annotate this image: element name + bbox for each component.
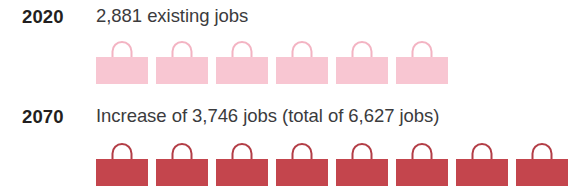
chart-row-2070: 2070 Increase of 3,746 jobs (total of 6,… bbox=[0, 100, 588, 136]
bag-handle bbox=[413, 144, 432, 161]
shopping-bag-icon-dark bbox=[456, 140, 508, 187]
shopping-bag-icon-light bbox=[276, 38, 328, 85]
shopping-bag-icon-dark bbox=[156, 140, 208, 187]
bag-body bbox=[216, 159, 268, 186]
year-label-2020: 2020 bbox=[22, 6, 64, 28]
year-label-2070: 2070 bbox=[22, 106, 64, 128]
shopping-bag-icon-light bbox=[216, 38, 268, 85]
bag-handle bbox=[293, 42, 312, 59]
bag-handle bbox=[113, 144, 132, 161]
bag-handle bbox=[293, 144, 312, 161]
shopping-bag-icon-dark bbox=[96, 140, 148, 187]
bag-body bbox=[96, 57, 148, 84]
bag-body bbox=[156, 159, 208, 186]
bag-body bbox=[156, 57, 208, 84]
row-description-2070: Increase of 3,746 jobs (total of 6,627 j… bbox=[96, 105, 439, 127]
bag-handle bbox=[173, 42, 192, 59]
shopping-bag-icon-dark bbox=[276, 140, 328, 187]
shopping-bag-icon-light bbox=[336, 38, 388, 85]
icon-strip-2020 bbox=[96, 38, 448, 85]
bag-handle bbox=[533, 144, 552, 161]
bag-handle bbox=[233, 144, 252, 161]
bag-handle bbox=[113, 42, 132, 59]
shopping-bag-icon-dark bbox=[516, 140, 568, 187]
shopping-bag-icon-light bbox=[156, 38, 208, 85]
bag-handle bbox=[353, 42, 372, 59]
bag-body bbox=[276, 57, 328, 84]
bag-body bbox=[216, 57, 268, 84]
shopping-bag-icon-light bbox=[96, 38, 148, 85]
icon-strip-2070 bbox=[96, 140, 568, 187]
row-description-2020: 2,881 existing jobs bbox=[96, 5, 248, 27]
bag-body bbox=[456, 159, 508, 186]
bag-body bbox=[276, 159, 328, 186]
bag-handle bbox=[413, 42, 432, 59]
bag-body bbox=[336, 159, 388, 186]
bag-handle bbox=[473, 144, 492, 161]
bag-body bbox=[396, 159, 448, 186]
shopping-bag-icon-dark bbox=[336, 140, 388, 187]
shopping-bag-icon-dark bbox=[216, 140, 268, 187]
shopping-bag-icon-light bbox=[396, 38, 448, 85]
shopping-bag-icon-dark bbox=[396, 140, 448, 187]
bag-handle bbox=[173, 144, 192, 161]
bag-body bbox=[96, 159, 148, 186]
chart-row-2020: 2020 2,881 existing jobs bbox=[0, 0, 588, 36]
bag-body bbox=[516, 159, 568, 186]
bag-body bbox=[336, 57, 388, 84]
bag-handle bbox=[233, 42, 252, 59]
bag-handle bbox=[353, 144, 372, 161]
row-header-2020: 2020 2,881 existing jobs bbox=[0, 0, 588, 36]
row-header-2070: 2070 Increase of 3,746 jobs (total of 6,… bbox=[0, 100, 588, 136]
bag-body bbox=[396, 57, 448, 84]
jobs-infographic: 2020 2,881 existing jobs 2070 Increase o… bbox=[0, 0, 588, 196]
